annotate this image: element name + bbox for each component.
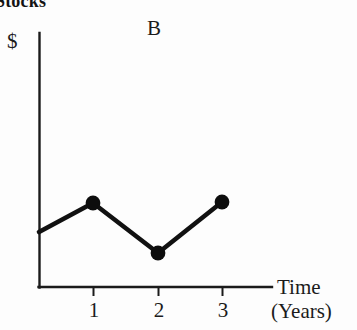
x-axis-title: Time — [277, 275, 321, 300]
data-point-year-3 — [215, 195, 230, 210]
x-tick-label-3: 3 — [210, 298, 236, 323]
data-point-year-2 — [151, 246, 166, 261]
data-point-year-1 — [86, 196, 101, 211]
x-tick-label-2: 2 — [146, 298, 172, 323]
chart-figure: ree Stocks B $ 1 2 3 Time (Years) — [0, 0, 357, 330]
x-tick-label-1: 1 — [81, 298, 107, 323]
x-axis-unit-label: (Years) — [271, 299, 332, 324]
data-line-series-b — [39, 202, 222, 253]
